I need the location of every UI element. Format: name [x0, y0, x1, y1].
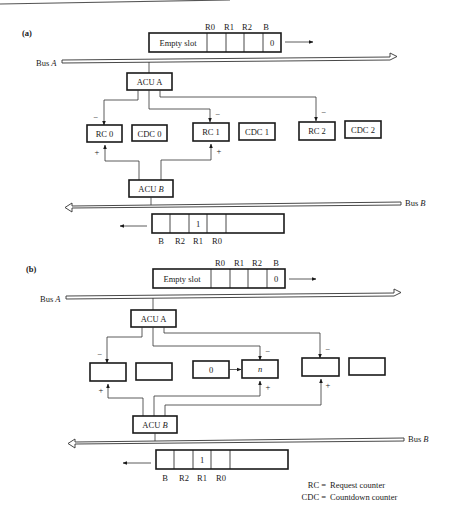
minus-sign: −	[326, 344, 331, 354]
slot-header-label: R0	[205, 22, 215, 32]
legend: RC = Request counter CDC = Countdown cou…	[302, 480, 398, 502]
acu-b-label: ACU B	[138, 184, 163, 194]
slot-header-label: R0	[215, 258, 225, 268]
acu-a-to-rc2-wire	[164, 327, 320, 358]
acu-a-to-rc2-wire	[160, 90, 316, 121]
top-slot: Empty slot 0	[153, 269, 285, 288]
slot-cell: Empty slot	[159, 38, 197, 48]
bus-b-label: Bus B	[408, 434, 429, 444]
slot-footer-label: R1	[193, 236, 203, 246]
diagram-canvas: (a) R0 R1 R2 B Empty slot 0 Bus A ACU A …	[0, 0, 452, 521]
slot-cell: Empty slot	[163, 274, 201, 284]
slot-footer-label: R2	[179, 473, 189, 483]
panel-label: (a)	[22, 28, 32, 38]
legend-abbr: CDC =	[302, 492, 327, 502]
rc1-label: RC 1	[202, 127, 220, 137]
cdc0-label: CDC 0	[138, 129, 162, 139]
slot-footer-label: R2	[175, 236, 185, 246]
slot-cell: 1	[196, 219, 200, 229]
acu-a-to-rc1-wire	[149, 90, 210, 122]
acu-b-to-rc2-wire	[165, 379, 321, 416]
bus-a-label: Bus A	[40, 294, 61, 304]
slot-footer-label: B	[158, 236, 164, 246]
acu-b-to-rc1-wire	[154, 381, 260, 416]
bottom-slot: 1	[152, 214, 284, 233]
bus-b-arrow	[68, 438, 404, 448]
plus-sign: +	[217, 146, 222, 156]
slot-cell: 0	[270, 38, 274, 48]
rc2-label: RC 2	[308, 126, 326, 136]
acu-b-to-rc0-wire	[108, 384, 143, 416]
panel-a: (a) R0 R1 R2 B Empty slot 0 Bus A ACU A …	[22, 22, 426, 246]
slot-footer-label: R0	[212, 236, 222, 246]
minus-sign: −	[322, 107, 327, 117]
slot-header-label: R2	[242, 22, 252, 32]
slot-footer-label: R0	[216, 473, 226, 483]
slot-cell: 1	[200, 455, 204, 465]
cdc2-label: CDC 2	[351, 125, 375, 135]
bus-b-label: Bus B	[405, 198, 426, 208]
page-edge-line	[0, 0, 230, 4]
bus-b-arrow	[65, 202, 401, 212]
minus-sign: −	[216, 109, 221, 119]
legend-abbr: RC =	[308, 480, 326, 490]
rc2-box	[302, 358, 339, 376]
slot-header-label: R1	[224, 22, 234, 32]
plus-sign: +	[326, 380, 331, 390]
panel-b: (b) R0 R1 R2 B Empty slot 0 Bus A ACU A …	[26, 258, 429, 483]
minus-sign: −	[98, 349, 103, 359]
legend-meaning: Request counter	[330, 480, 385, 490]
minus-sign: −	[266, 346, 271, 356]
slot-header-label: R1	[234, 258, 244, 268]
rc0-box	[90, 363, 126, 381]
acu-a-label: ACU A	[141, 314, 168, 324]
slot-cell: 0	[274, 274, 278, 284]
cdc1-label: CDC 1	[245, 127, 269, 137]
cdc0-box	[136, 363, 172, 380]
acu-a-to-rc0-wire	[104, 90, 138, 125]
slot-header-label: R2	[252, 258, 262, 268]
rc1-prefix-label: 0	[209, 365, 213, 375]
minus-sign: −	[94, 112, 99, 122]
bus-a-arrow	[62, 53, 397, 63]
rc0-label: RC 0	[96, 129, 114, 139]
plus-sign: +	[99, 385, 104, 395]
acu-b-label: ACU B	[142, 420, 167, 430]
top-slot: Empty slot 0	[149, 33, 281, 52]
acu-a-label: ACU A	[137, 77, 164, 87]
slot-header-label: B	[263, 22, 269, 32]
slot-header-label: B	[273, 258, 279, 268]
bus-a-arrow	[66, 289, 401, 299]
acu-a-to-rc1-wire	[153, 327, 260, 360]
cdc2-box	[349, 358, 385, 375]
panel-label: (b)	[26, 264, 37, 274]
bottom-slot: 1	[156, 450, 288, 469]
bus-a-label: Bus A	[36, 58, 57, 68]
legend-meaning: Countdown counter	[330, 492, 397, 502]
acu-a-to-rc0-wire	[107, 327, 142, 363]
slot-footer-label: R1	[197, 473, 207, 483]
plus-sign: +	[95, 147, 100, 157]
rc1-label: n	[258, 364, 262, 374]
plus-sign: +	[266, 382, 271, 392]
slot-footer-label: B	[162, 473, 168, 483]
